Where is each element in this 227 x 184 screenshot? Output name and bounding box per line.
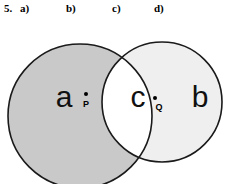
region-label-b: b <box>192 82 209 112</box>
point-p-label: P <box>83 100 89 109</box>
venn-diagram-screenshot: 5. a) b) c) d) <box>0 0 227 184</box>
point-q-dot <box>153 96 157 100</box>
venn-diagram: a c b P Q <box>0 0 227 184</box>
point-q-label: Q <box>155 103 162 112</box>
region-label-a: a <box>56 82 73 112</box>
point-p-dot <box>84 92 88 96</box>
region-label-c: c <box>131 82 146 112</box>
